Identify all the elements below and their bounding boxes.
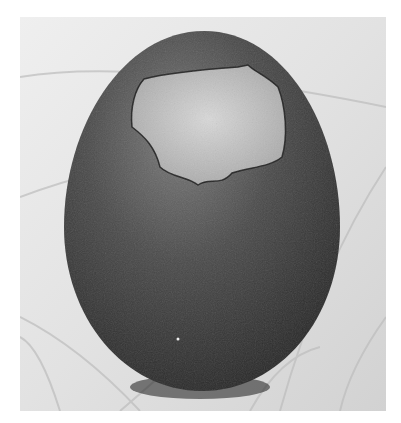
egg-photo-svg	[20, 17, 386, 411]
speck-highlight	[177, 338, 180, 341]
egg-photo	[20, 17, 386, 411]
